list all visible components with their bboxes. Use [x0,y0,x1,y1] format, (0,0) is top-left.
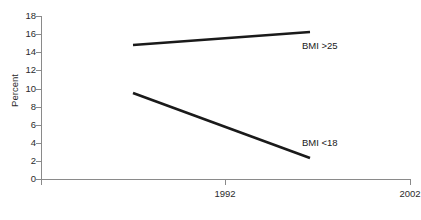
series-label-bmi-under-18: BMI <18 [302,137,338,148]
series-label-bmi-over-25: BMI >25 [302,40,338,51]
series-line-bmi-over-25 [133,32,310,45]
line-chart: 18 16 14 12 10 8 6 4 2 0 Percent 1992 20… [0,0,421,220]
plot-area [0,0,421,220]
series-line-bmi-under-18 [133,93,310,158]
